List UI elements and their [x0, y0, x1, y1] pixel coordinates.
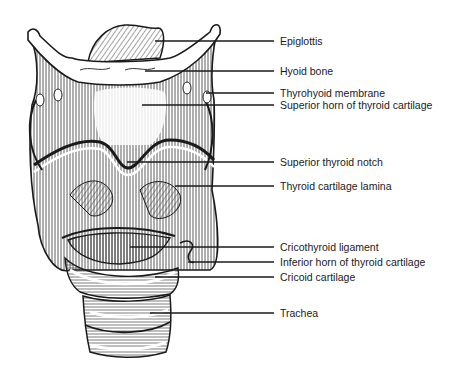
label-inferior-horn-thyroid-cartilage: Inferior horn of thyroid cartilage [280, 256, 425, 268]
label-trachea: Trachea [280, 307, 318, 319]
larynx-illustration [0, 0, 467, 373]
label-cricoid-cartilage: Cricoid cartilage [280, 271, 355, 283]
epiglottis [88, 25, 164, 62]
label-epiglottis: Epiglottis [280, 35, 323, 47]
label-hyoid-bone: Hyoid bone [280, 65, 333, 77]
label-cricothyroid-ligament: Cricothyroid ligament [280, 241, 379, 253]
label-superior-horn-thyroid-cartilage: Superior horn of thyroid cartilage [280, 99, 432, 111]
trachea [83, 295, 171, 357]
label-superior-thyroid-notch: Superior thyroid notch [280, 156, 383, 168]
label-thyrohyoid-membrane: Thyrohyoid membrane [280, 87, 385, 99]
label-thyroid-cartilage-lamina: Thyroid cartilage lamina [280, 180, 391, 192]
